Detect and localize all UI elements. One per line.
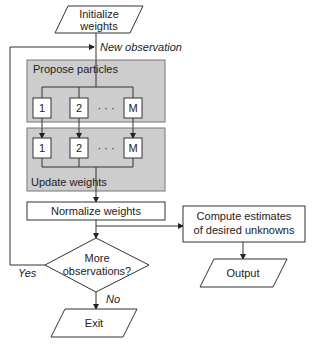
decision-label-line2: observations? (63, 265, 132, 277)
normalize-weights-label: Normalize weights (51, 205, 141, 217)
compute-label-line1: Compute estimates (197, 210, 292, 222)
update-particle-m: M (124, 138, 142, 158)
flowchart-canvas: Initialize weights New observation Propo… (0, 0, 313, 346)
initialize-weights-node: Initialize weights (55, 6, 143, 33)
compute-label-line2: of desired unknowns (194, 224, 295, 236)
output-label: Output (226, 267, 259, 279)
propose-particles-label: Propose particles (33, 63, 118, 75)
no-label: No (106, 293, 120, 305)
output-node: Output (200, 259, 287, 287)
exit-label: Exit (85, 317, 103, 329)
svg-text:2: 2 (76, 142, 82, 154)
more-observations-decision: More observations? (45, 238, 149, 292)
update-ellipsis: · · · (97, 142, 114, 154)
svg-text:1: 1 (39, 142, 45, 154)
propose-particle-2: 2 (70, 98, 88, 118)
update-particle-2: 2 (70, 138, 88, 158)
svg-text:M: M (128, 102, 137, 114)
propose-particle-m: M (124, 98, 142, 118)
yes-label: Yes (18, 267, 37, 279)
new-observation-label: New observation (100, 41, 182, 53)
svg-text:1: 1 (39, 102, 45, 114)
compute-estimates-node: Compute estimates of desired unknowns (183, 206, 305, 242)
normalize-weights-node: Normalize weights (27, 202, 165, 220)
update-weights-label: Update weights (31, 176, 107, 188)
update-weights-group: 1 2 · · · M Update weights (27, 128, 165, 191)
propose-particle-1: 1 (33, 98, 51, 118)
update-particle-1: 1 (33, 138, 51, 158)
svg-text:2: 2 (76, 102, 82, 114)
svg-text:M: M (128, 142, 137, 154)
initialize-label-line1: Initialize (79, 8, 119, 20)
exit-node: Exit (51, 309, 137, 337)
propose-ellipsis: · · · (97, 102, 114, 114)
propose-particles-group: Propose particles 1 2 · · · M (27, 60, 165, 122)
decision-label-line1: More (84, 252, 109, 264)
initialize-label-line2: weights (79, 20, 118, 32)
flowchart-svg: Initialize weights New observation Propo… (0, 0, 313, 346)
